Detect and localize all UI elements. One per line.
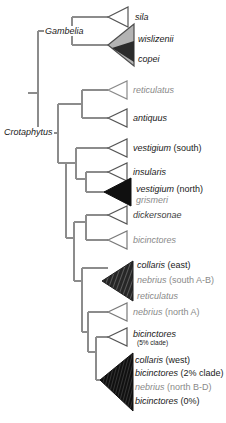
tip-label-dickersonae: dickersonae	[133, 210, 182, 220]
clade-triangle-dickersonae	[108, 206, 127, 224]
tip-label-sila: sila	[135, 12, 149, 22]
tip-label-nebrius-north-bd: nebrius (north B-D)	[135, 382, 212, 392]
clade-triangles	[100, 7, 134, 411]
tip-label-bicinctores-2pct: bicinctores (2% clade)	[135, 368, 224, 378]
clade-triangle-nebrius-north-a	[108, 303, 127, 321]
tip-label-collaris-west: collaris (west)	[135, 355, 190, 365]
clade-triangle-antiquus	[108, 109, 127, 127]
clade-triangle-bicinctores-a	[108, 231, 127, 249]
tip-label-vestigium-south: vestigium (south)	[133, 143, 202, 153]
tip-label-vestigium-north: vestigium (north)	[136, 184, 203, 194]
clade-triangle-collaris-west	[100, 353, 133, 411]
tip-label-grismeri: grismeri	[136, 195, 168, 205]
tip-label-bicinctores-5pct: bicinctores (5% clade)	[133, 329, 176, 346]
tip-label-collaris-east: collaris (east)	[137, 260, 191, 270]
tip-label-reticulatus-crotaphytus: reticulatus	[137, 291, 178, 301]
clade-triangle-collaris-east	[102, 261, 133, 301]
tip-label-copei: copei	[138, 54, 160, 64]
tip-label-bicinctores-a: bicinctores	[133, 235, 176, 245]
tip-label-insularis: insularis	[133, 167, 166, 177]
tip-label-nebrius-south-ab: nebrius (south A-B)	[137, 275, 214, 285]
clade-triangle-sila	[108, 7, 128, 27]
clade-triangle-bicinctores-5pct	[108, 328, 127, 346]
genus-label-gambelia: Gambelia	[44, 26, 85, 36]
tip-label-nebrius-north-a: nebrius (north A)	[133, 307, 200, 317]
genus-label-crotaphytus: Crotaphytus	[3, 127, 54, 137]
tip-label-bicinctores-0pct: bicinctores (0%)	[135, 396, 200, 406]
phylogenetic-tree-figure: Gambelia Crotaphytus sila wislizenii cop…	[0, 0, 226, 423]
tip-note-5pct-clade: (5% clade)	[137, 339, 176, 346]
tree-branches-canvas	[0, 0, 226, 423]
tip-label-antiquus: antiquus	[133, 113, 167, 123]
clade-triangle-reticulatus-gambelia	[108, 81, 127, 99]
clade-triangle-vestigium-north	[104, 178, 131, 206]
branch-lines	[28, 17, 108, 380]
tip-label-wislizenii: wislizenii	[138, 34, 174, 44]
clade-triangle-vestigium-south	[108, 139, 127, 157]
clade-triangle-insularis	[108, 163, 127, 181]
tip-label-reticulatus-gambelia: reticulatus	[133, 85, 174, 95]
